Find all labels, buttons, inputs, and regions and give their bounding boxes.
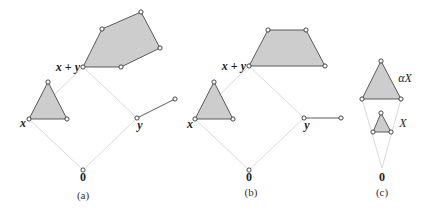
vertex-point: [247, 64, 251, 68]
minkowski-sum-figure: xyx + y0(a) xyx + y0(b) αXX0(c): [0, 0, 429, 214]
guide-line: [83, 67, 137, 118]
vertex-point: [100, 27, 104, 31]
panel-b: xyx + y0(b): [186, 28, 343, 199]
vertex-point: [304, 28, 308, 32]
label-x-plus-y: x + y: [55, 60, 81, 74]
guide-line: [29, 119, 83, 170]
label-x-set: X: [398, 116, 407, 130]
label-x-plus-y: x + y: [221, 59, 247, 73]
vertex-point: [339, 116, 343, 120]
panel-caption: (b): [245, 186, 258, 199]
panel-caption: (a): [77, 189, 90, 202]
label-x: x: [186, 117, 193, 131]
guide-line: [249, 66, 304, 118]
vertex-point: [139, 10, 143, 14]
panel-caption: (c): [376, 186, 389, 199]
set-alpha-x-triangle: [362, 61, 401, 99]
vertex-point: [119, 65, 123, 69]
label-origin: 0: [246, 170, 252, 184]
vertex-point: [231, 117, 235, 121]
label-origin: 0: [379, 170, 385, 184]
vertex-point: [389, 130, 393, 134]
vertex-point: [65, 117, 69, 121]
vertex-point: [360, 97, 364, 101]
set-x-triangle: [373, 113, 391, 132]
label-alpha-x: αX: [398, 71, 412, 85]
label-y: y: [302, 118, 310, 132]
label-x: x: [19, 116, 26, 130]
vertex-point: [212, 80, 216, 84]
vertex-point: [379, 111, 383, 115]
vertex-point: [27, 117, 31, 121]
vertex-point: [371, 130, 375, 134]
set-x-plus-y-polygon: [83, 12, 160, 67]
vertex-point: [158, 46, 162, 50]
vertex-point: [323, 64, 327, 68]
panel-a: xyx + y0(a): [19, 10, 177, 202]
vertex-point: [193, 117, 197, 121]
vertex-point: [173, 97, 177, 101]
vertex-point: [46, 80, 50, 84]
panel-c: αXX0(c): [360, 59, 413, 199]
guide-line: [195, 119, 249, 170]
vertex-point: [379, 59, 383, 63]
set-x-plus-y-trapezoid: [249, 30, 325, 66]
vertex-point: [399, 97, 403, 101]
label-origin: 0: [80, 170, 86, 184]
set-y-segment: [137, 99, 175, 118]
guide-line: [83, 118, 137, 170]
vertex-point: [266, 28, 270, 32]
label-y: y: [135, 118, 143, 132]
vertex-point: [81, 65, 85, 69]
guide-line: [249, 118, 304, 170]
